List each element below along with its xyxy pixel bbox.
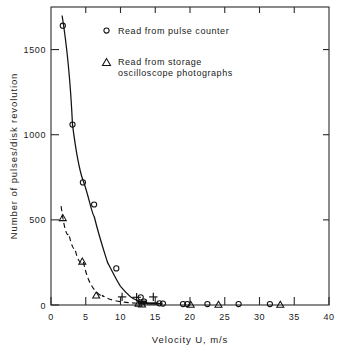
x-tick-label: 5 [83,312,89,322]
x-axis-ticks-top [86,7,295,13]
y-axis-tick-labels: 0 500 1000 1500 [24,45,46,311]
y-tick-label: 500 [29,215,46,225]
legend-label: Read from pulse counter [118,26,229,36]
x-tick-label: 15 [150,312,161,322]
legend-circle-icon [104,28,109,33]
data-point-plus [149,293,157,301]
figure-container: 0 5 10 15 20 25 30 35 40 0 500 1000 1500… [0,0,345,353]
x-tick-label: 30 [254,312,265,322]
y-axis-ticks [51,50,59,305]
data-point-plus [132,293,140,301]
chart-canvas: 0 5 10 15 20 25 30 35 40 0 500 1000 1500… [0,0,345,353]
series-oscilloscope-curve [61,206,138,303]
data-point-circle [92,202,97,207]
legend-triangle-icon [103,59,111,66]
data-point-circle [205,301,210,306]
legend-label-line2: oscilloscope photographs [118,68,233,78]
data-point-plus [118,293,126,301]
x-axis-tick-labels: 0 5 10 15 20 25 30 35 40 [48,312,334,322]
x-tick-label: 0 [48,312,54,322]
data-point-triangle [93,292,100,298]
x-tick-label: 10 [115,312,126,322]
data-point-circle [267,301,272,306]
data-point-triangle [277,301,284,307]
data-point-triangle [215,301,222,307]
y-tick-label: 1000 [24,130,46,140]
legend-entry-oscilloscope: Read from storage oscilloscope photograp… [103,57,233,78]
y-tick-label: 1500 [24,45,46,55]
legend: Read from pulse counter Read from storag… [103,26,233,78]
y-axis-title: Number of pulses/disk revolution [8,73,19,240]
y-axis-ticks-right [323,50,329,220]
series-oscilloscope-markers [59,215,283,308]
legend-label-line1: Read from storage [118,57,202,67]
plot-frame [51,7,329,305]
x-tick-label: 25 [219,312,230,322]
x-tick-label: 35 [289,312,300,322]
x-tick-label: 20 [184,312,195,322]
x-tick-label: 40 [323,312,334,322]
legend-entry-pulse-counter: Read from pulse counter [104,26,229,36]
data-point-circle [114,266,119,271]
x-axis-title: Velocity U, m/s [152,334,228,345]
y-tick-label: 0 [40,301,46,311]
data-point-circle [236,301,241,306]
